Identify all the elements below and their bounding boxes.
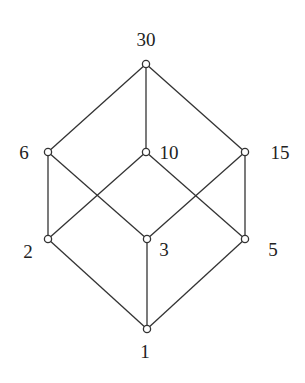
- hasse-diagram: 30610152351: [0, 0, 305, 383]
- edge-2-1: [48, 239, 147, 329]
- node-15: [241, 148, 248, 155]
- node-2: [44, 235, 51, 242]
- node-30: [142, 60, 149, 67]
- node-label-15: 15: [271, 142, 290, 163]
- node-label-6: 6: [19, 142, 29, 163]
- edge-30-15: [146, 64, 245, 152]
- node-label-2: 2: [23, 241, 33, 262]
- edges: [48, 64, 245, 329]
- node-10: [142, 148, 149, 155]
- node-1: [143, 325, 150, 332]
- node-3: [143, 235, 150, 242]
- node-label-30: 30: [137, 29, 156, 50]
- node-label-5: 5: [268, 239, 278, 260]
- node-label-1: 1: [140, 341, 150, 362]
- node-label-10: 10: [160, 142, 179, 163]
- node-label-3: 3: [159, 239, 169, 260]
- diagram-canvas: 30610152351: [0, 0, 305, 383]
- labels: 30610152351: [19, 29, 289, 362]
- node-6: [44, 148, 51, 155]
- edge-30-6: [48, 64, 146, 152]
- node-5: [241, 235, 248, 242]
